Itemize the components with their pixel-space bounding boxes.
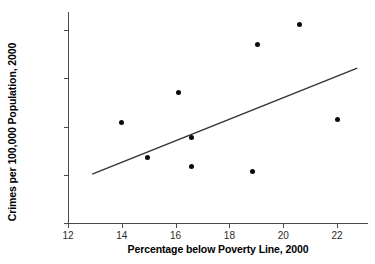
y-axis-title: Crimes per 100,000 Population, 2000 <box>0 0 24 264</box>
x-tick-label: 22 <box>331 230 342 241</box>
x-tick-label: 16 <box>170 230 181 241</box>
data-point <box>335 117 340 122</box>
data-point <box>250 169 255 174</box>
x-tick-label: 12 <box>62 230 73 241</box>
x-tick <box>176 223 177 228</box>
scatter-plot-figure: Crimes per 100,000 Population, 2000 3,00… <box>0 0 375 264</box>
x-tick <box>229 223 230 228</box>
x-tick-label: 14 <box>116 230 127 241</box>
regression-line <box>92 68 357 174</box>
trend-line-svg <box>68 12 368 223</box>
x-tick <box>68 223 69 228</box>
x-tick <box>122 223 123 228</box>
x-axis-line <box>68 223 368 224</box>
plot-area: 3,0005,0007,0009,00011,000 121416182022 <box>68 12 368 223</box>
x-axis-title: Percentage below Poverty Line, 2000 <box>68 243 368 255</box>
x-tick-label: 18 <box>224 230 235 241</box>
x-tick <box>337 223 338 228</box>
data-point <box>297 22 302 27</box>
x-tick <box>283 223 284 228</box>
x-tick-label: 20 <box>278 230 289 241</box>
